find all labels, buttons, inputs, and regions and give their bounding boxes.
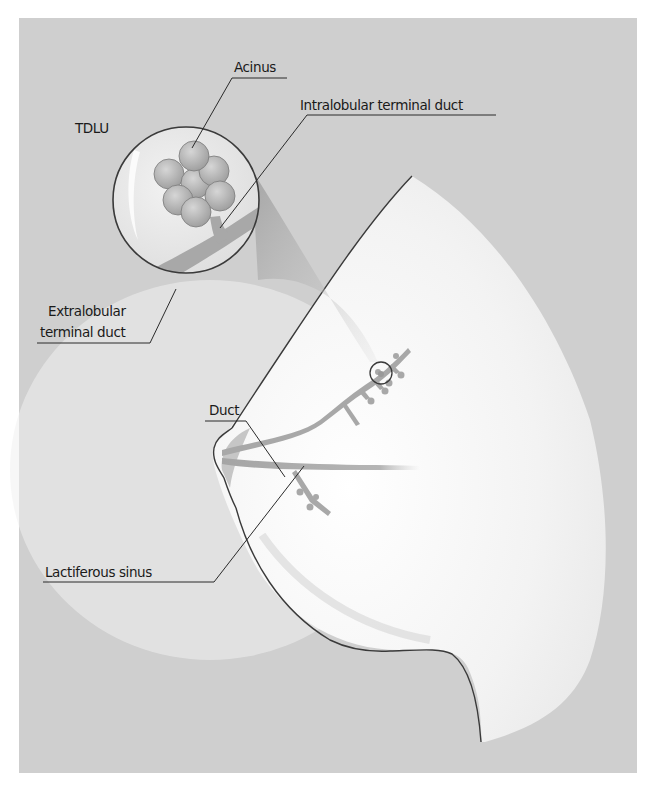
label-acinus: Acinus	[234, 59, 276, 75]
label-lactiferous-sinus: Lactiferous sinus	[45, 564, 152, 580]
label-intralobular-terminal-duct: Intralobular terminal duct	[300, 97, 463, 113]
label-extralobular-line2: terminal duct	[40, 324, 125, 340]
breast-anatomy-diagram: Acinus TDLU Intralobular terminal duct E…	[0, 0, 660, 797]
label-duct: Duct	[209, 402, 239, 418]
label-tdlu: TDLU	[74, 120, 109, 136]
tdlu-location-dot	[378, 371, 384, 377]
label-extralobular-line1: Extralobular	[48, 303, 126, 319]
